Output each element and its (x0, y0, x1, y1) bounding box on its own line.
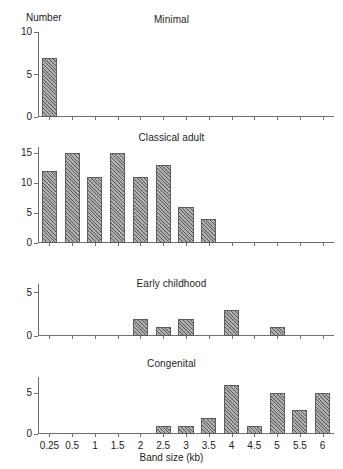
histogram-bar (224, 385, 239, 434)
panel-congenital: Congenital 050.250.511.522.533.544.555.5… (0, 358, 343, 469)
histogram-bar (178, 319, 193, 336)
x-tick (186, 117, 187, 120)
x-tick (323, 117, 324, 120)
x-tick (140, 243, 141, 246)
x-tick (300, 117, 301, 120)
histogram-bar (42, 171, 57, 243)
x-tick (209, 243, 210, 246)
y-axis-classical-adult (38, 147, 39, 243)
y-tick-label: 5 (26, 288, 32, 298)
y-tick-label: 5 (26, 70, 32, 80)
x-tick (323, 434, 324, 437)
x-tick-label: 0.25 (40, 441, 59, 451)
y-tick-label: 0 (26, 238, 32, 248)
x-tick (186, 243, 187, 246)
panel-title-classical-adult: Classical adult (0, 132, 343, 143)
x-tick-label: 4.5 (247, 441, 261, 451)
plot-area-congenital: 050.250.511.522.533.544.555.56 (38, 377, 334, 434)
x-tick (72, 243, 73, 246)
x-tick (118, 434, 119, 437)
y-axis-congenital (38, 377, 39, 434)
x-tick-label: 4 (229, 441, 235, 451)
y-tick (34, 32, 38, 33)
histogram-bar (247, 426, 262, 434)
x-tick-label: 3.5 (202, 441, 216, 451)
x-tick (186, 434, 187, 437)
y-tick (34, 117, 38, 118)
x-tick (72, 336, 73, 339)
y-axis-minimal (38, 32, 39, 117)
x-tick-label: 2 (138, 441, 144, 451)
histogram-bar (156, 327, 171, 336)
panel-early-childhood: Early childhood 05 (0, 276, 343, 346)
x-tick (232, 243, 233, 246)
x-tick-label: 5.5 (293, 441, 307, 451)
x-tick (140, 336, 141, 339)
y-tick-label: 0 (26, 112, 32, 122)
y-tick-label: 10 (21, 27, 32, 37)
y-tick (34, 213, 38, 214)
x-tick (300, 336, 301, 339)
histogram-bar (156, 165, 171, 243)
histogram-bar (87, 177, 102, 243)
x-tick (163, 336, 164, 339)
panel-classical-adult: Classical adult 051015 (0, 128, 343, 263)
x-tick (277, 336, 278, 339)
histogram-bar (42, 58, 57, 118)
x-tick-label: 1 (92, 441, 98, 451)
histogram-bar (292, 410, 307, 434)
x-tick (163, 243, 164, 246)
histogram-bar (156, 426, 171, 434)
y-tick (34, 74, 38, 75)
x-tick (49, 434, 50, 437)
x-tick (95, 117, 96, 120)
x-tick (209, 434, 210, 437)
x-tick (95, 243, 96, 246)
histogram-figure: Number Minimal 0510 Classical adult 0510… (0, 0, 343, 469)
plot-area-early-childhood: 05 (38, 284, 334, 336)
x-tick (72, 434, 73, 437)
histogram-bar (110, 153, 125, 243)
y-tick-label: 5 (26, 388, 32, 398)
x-tick (72, 117, 73, 120)
y-tick (34, 434, 38, 435)
x-tick (232, 434, 233, 437)
y-tick (34, 336, 38, 337)
x-tick (300, 243, 301, 246)
histogram-bar (270, 393, 285, 434)
x-tick (232, 336, 233, 339)
histogram-bar (315, 393, 330, 434)
x-tick (209, 117, 210, 120)
y-tick-label: 15 (21, 148, 32, 158)
panel-minimal: Minimal 0510 (0, 4, 343, 124)
x-tick (323, 243, 324, 246)
y-tick-label: 0 (26, 429, 32, 439)
x-tick-label: 3 (183, 441, 189, 451)
x-tick (277, 243, 278, 246)
histogram-bar (133, 319, 148, 336)
histogram-bar (178, 426, 193, 434)
histogram-bar (133, 177, 148, 243)
y-tick-label: 10 (21, 178, 32, 188)
x-tick-label: 2.5 (156, 441, 170, 451)
y-tick (34, 292, 38, 293)
x-tick (232, 117, 233, 120)
y-tick (34, 183, 38, 184)
y-tick (34, 153, 38, 154)
panel-title-minimal: Minimal (0, 14, 343, 25)
x-tick (49, 243, 50, 246)
histogram-bar (65, 153, 80, 243)
x-tick (254, 434, 255, 437)
plot-area-classical-adult: 051015 (38, 147, 334, 243)
x-tick-label: 6 (320, 441, 326, 451)
y-tick (34, 243, 38, 244)
x-tick (49, 336, 50, 339)
x-tick (254, 336, 255, 339)
x-tick (49, 117, 50, 120)
histogram-bar (201, 418, 216, 434)
x-tick (95, 434, 96, 437)
x-tick (300, 434, 301, 437)
x-tick (163, 117, 164, 120)
x-tick (140, 117, 141, 120)
histogram-bar (270, 327, 285, 336)
